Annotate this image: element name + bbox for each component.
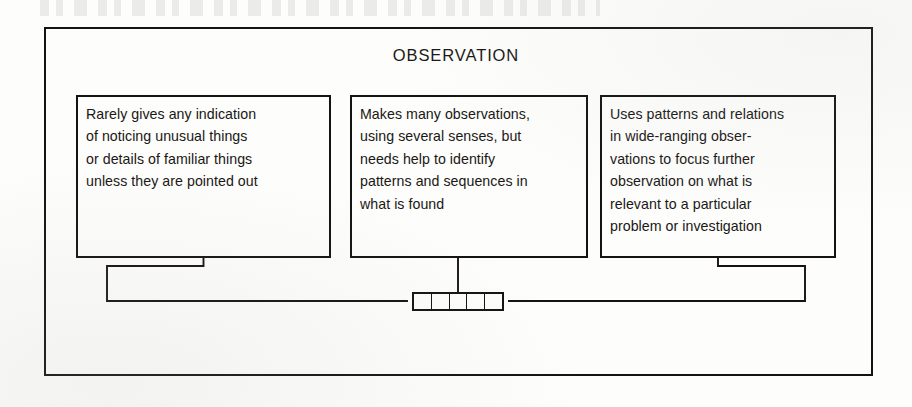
- diagram-page: OBSERVATION Rarely gives any indication …: [0, 0, 912, 407]
- segment-cell[interactable]: [432, 294, 450, 309]
- connector-lines: [0, 0, 912, 407]
- segment-cell[interactable]: [414, 294, 432, 309]
- segment-cell[interactable]: [450, 294, 468, 309]
- progress-segment-bar[interactable]: [412, 292, 504, 311]
- connector-right: [509, 258, 805, 301]
- segment-cell[interactable]: [467, 294, 485, 309]
- segment-cell[interactable]: [485, 294, 502, 309]
- connector-left: [107, 258, 407, 301]
